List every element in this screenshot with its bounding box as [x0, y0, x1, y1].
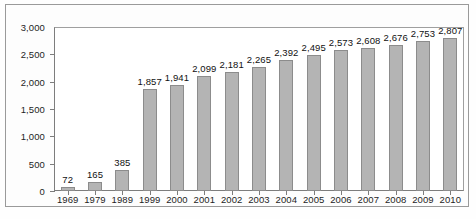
- bar: [279, 60, 293, 191]
- bar-value-label: 2,181: [220, 59, 244, 70]
- bar: [115, 170, 129, 191]
- bar: [334, 50, 348, 191]
- x-axis-tick-label: 2007: [353, 194, 383, 205]
- bar-group: 165: [82, 27, 108, 191]
- bar-value-label: 2,265: [247, 54, 271, 65]
- y-axis-tick-label: 1,500: [5, 104, 45, 115]
- bar: [443, 38, 457, 191]
- bar-group: 2,807: [437, 27, 463, 191]
- bar-group: 2,753: [410, 27, 436, 191]
- bar-group: 1,857: [137, 27, 163, 191]
- x-axis-tick-label: 2000: [162, 194, 192, 205]
- bar-group: 2,495: [301, 27, 327, 191]
- y-axis-tick-label: 1,000: [5, 131, 45, 142]
- y-axis-tick-label: 0: [5, 186, 45, 197]
- x-axis-tick-label: 1979: [80, 194, 110, 205]
- x-axis: 1969197919891999200020012002200320042005…: [54, 194, 464, 210]
- bar-group: 2,608: [355, 27, 381, 191]
- bar-group: 2,181: [219, 27, 245, 191]
- bar-value-label: 2,676: [384, 32, 408, 43]
- y-axis-tick-label: 2,500: [5, 49, 45, 60]
- x-axis-tick-label: 1989: [107, 194, 137, 205]
- bar-group: 2,573: [328, 27, 354, 191]
- x-axis-tick-label: 2004: [271, 194, 301, 205]
- bar-value-label: 385: [114, 157, 130, 168]
- bar-group: 2,265: [246, 27, 272, 191]
- bar-value-label: 2,495: [302, 42, 326, 53]
- bar: [307, 55, 321, 191]
- bar-value-label: 1,857: [138, 76, 162, 87]
- y-axis-tick-label: 3,000: [5, 22, 45, 33]
- bar-group: 385: [109, 27, 135, 191]
- bar-value-label: 2,099: [192, 63, 216, 74]
- bar-value-label: 1,941: [165, 72, 189, 83]
- bar-chart-figure: 05001,0001,5002,0002,5003,000 721653851,…: [0, 0, 476, 219]
- bar: [361, 48, 375, 191]
- x-axis-tick-label: 2005: [299, 194, 329, 205]
- x-axis-tick-label: 2010: [435, 194, 465, 205]
- y-axis-tick-label: 500: [5, 158, 45, 169]
- bar: [197, 76, 211, 191]
- bar-group: 2,392: [273, 27, 299, 191]
- bar: [416, 41, 430, 191]
- bar-group: 72: [55, 27, 81, 191]
- x-axis-tick-label: 2008: [381, 194, 411, 205]
- x-axis-tick-label: 2003: [244, 194, 274, 205]
- x-axis-tick-label: 2002: [217, 194, 247, 205]
- x-axis-tick-label: 2009: [408, 194, 438, 205]
- bar-value-label: 72: [62, 174, 73, 185]
- bar-value-label: 165: [87, 169, 103, 180]
- bar: [143, 89, 157, 191]
- bar: [170, 85, 184, 191]
- bar-value-label: 2,753: [411, 28, 435, 39]
- x-axis-tick-label: 2001: [189, 194, 219, 205]
- bar: [389, 45, 403, 191]
- bar: [252, 67, 266, 191]
- y-axis-tick-mark: [50, 191, 55, 192]
- bar: [88, 182, 102, 191]
- chart-outer-frame: 05001,0001,5002,0002,5003,000 721653851,…: [5, 4, 469, 207]
- bar-value-label: 2,807: [438, 25, 462, 36]
- y-axis-tick-label: 2,000: [5, 76, 45, 87]
- bar-value-label: 2,608: [356, 35, 380, 46]
- bar-group: 2,099: [191, 27, 217, 191]
- bar-value-label: 2,573: [329, 37, 353, 48]
- x-axis-tick-label: 2006: [326, 194, 356, 205]
- bar-group: 1,941: [164, 27, 190, 191]
- bar: [225, 72, 239, 191]
- bar-value-label: 2,392: [274, 47, 298, 58]
- bars-layer: 721653851,8571,9412,0992,1812,2652,3922,…: [54, 27, 464, 191]
- x-axis-tick-label: 1999: [135, 194, 165, 205]
- x-axis-tick-label: 1969: [53, 194, 83, 205]
- y-axis: 05001,0001,5002,0002,5003,000: [6, 5, 54, 195]
- bar-group: 2,676: [383, 27, 409, 191]
